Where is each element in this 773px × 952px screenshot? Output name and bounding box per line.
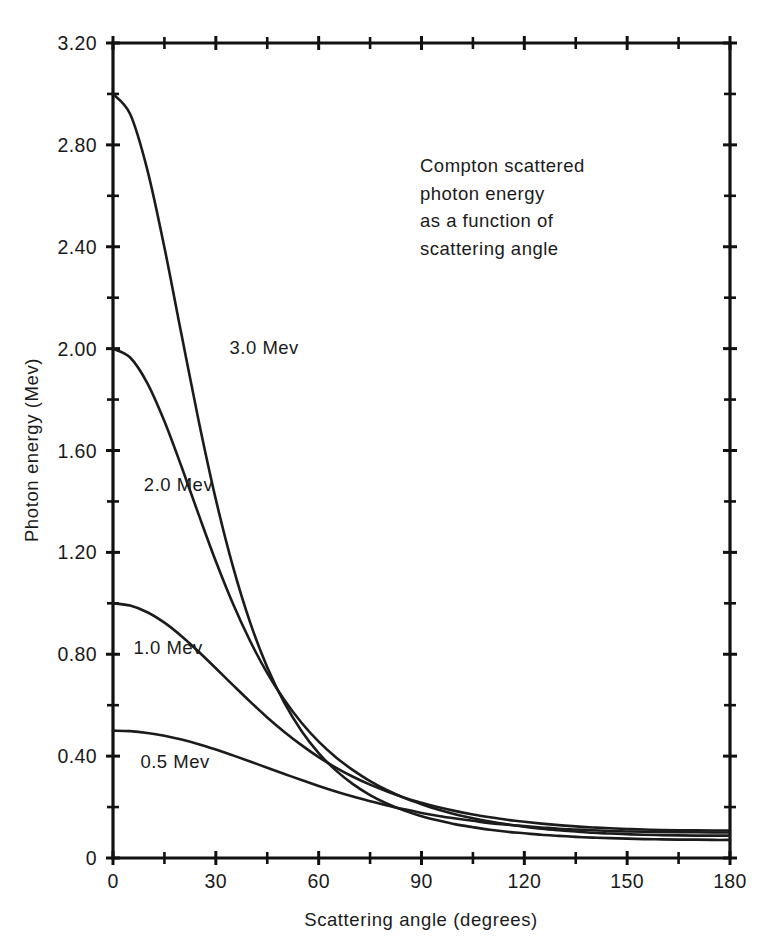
x-axis-title: Scattering angle (degrees): [304, 909, 538, 930]
x-axis-tick-label: 120: [507, 870, 541, 892]
y-axis-tick-label: 0: [86, 847, 97, 869]
annotation-line: photon energy: [420, 183, 545, 204]
y-axis-title: Photon energy (Mev): [21, 358, 42, 542]
figure-background: [0, 0, 773, 952]
curve-label-2-0-mev: 2.0 Mev: [144, 474, 214, 495]
x-axis-tick-label: 150: [610, 870, 644, 892]
annotation-line: as a function of: [420, 210, 554, 231]
y-axis-tick-label: 1.20: [57, 541, 97, 563]
y-axis-tick-label: 3.20: [57, 32, 97, 54]
annotation-line: scattering angle: [420, 238, 559, 259]
chart-canvas: 00.400.801.201.602.002.402.803.20 030609…: [0, 0, 773, 952]
y-axis-tick-label: 1.60: [57, 440, 97, 462]
x-axis-tick-label: 0: [107, 870, 118, 892]
y-axis-tick-label: 2.00: [57, 338, 97, 360]
curve-label-1-0-mev: 1.0 Mev: [134, 637, 204, 658]
y-axis-tick-label: 0.80: [57, 643, 97, 665]
compton-scattering-figure: 00.400.801.201.602.002.402.803.20 030609…: [0, 0, 773, 952]
annotation-line: Compton scattered: [420, 155, 585, 176]
curve-label-3-0-mev: 3.0 Mev: [230, 337, 300, 358]
y-axis-tick-label: 2.40: [57, 236, 97, 258]
x-axis-tick-label: 90: [410, 870, 433, 892]
y-axis-tick-label: 0.40: [57, 745, 97, 767]
x-axis-tick-label: 180: [713, 870, 747, 892]
curve-label-0-5-mev: 0.5 Mev: [140, 751, 210, 772]
y-axis-tick-label: 2.80: [57, 134, 97, 156]
x-axis-tick-label: 60: [307, 870, 330, 892]
x-axis-tick-label: 30: [205, 870, 228, 892]
